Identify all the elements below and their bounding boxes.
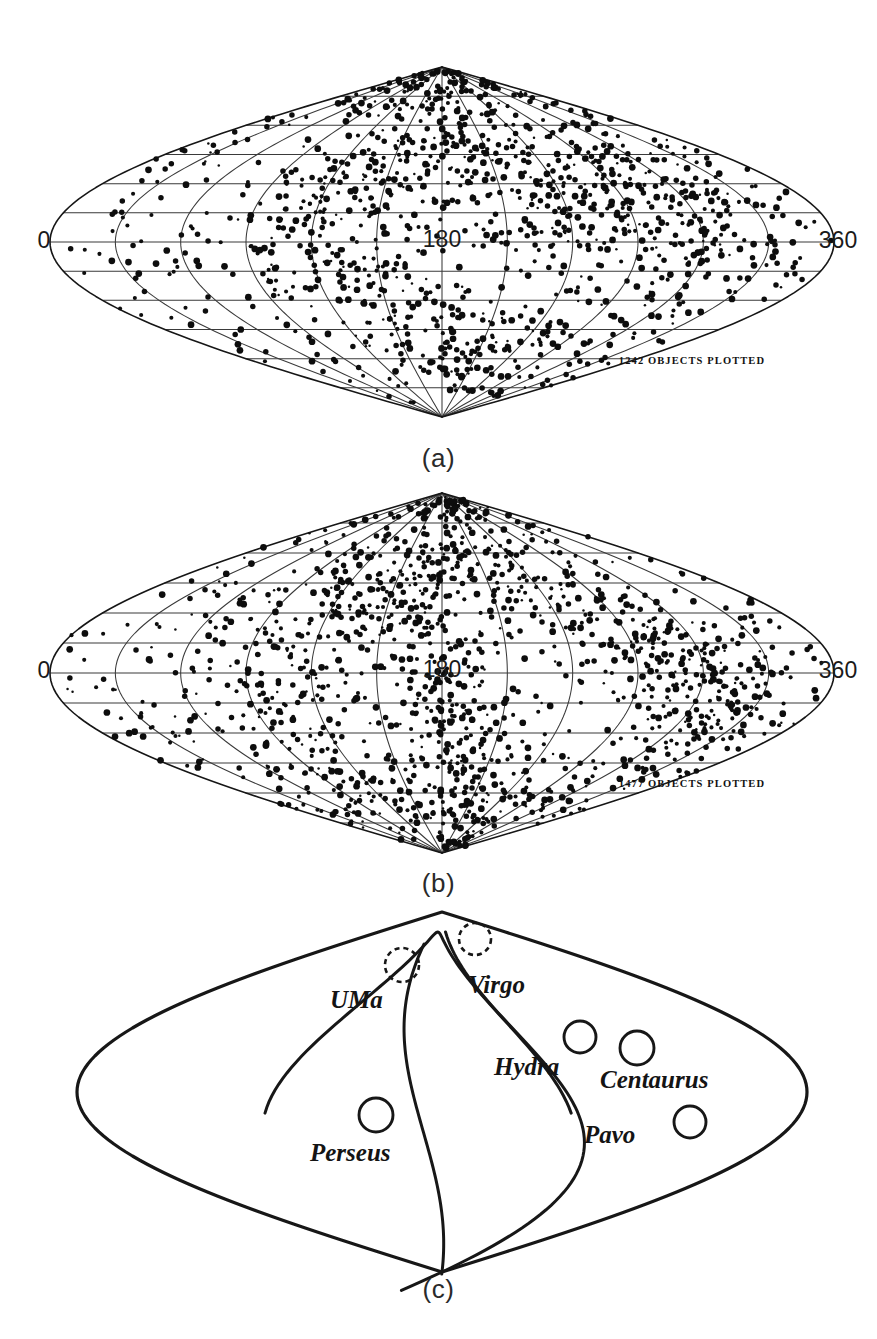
cluster-marker-hydra xyxy=(564,1021,596,1053)
panel-a-object-count: 1242 OBJECTS PLOTTED xyxy=(619,355,765,366)
panel-b-axis-label-right: 360 xyxy=(819,657,857,683)
cluster-label-pavo: Pavo xyxy=(583,1121,635,1148)
cluster-label-virgo: Virgo xyxy=(468,971,525,998)
panel-c-cluster-labels: UMaVirgoHydraCentaurusPerseusPavo xyxy=(309,971,708,1166)
cluster-marker-perseus xyxy=(359,1098,393,1132)
panel-b-sky-map: 0 180 360 1477 OBJECTS PLOTTED xyxy=(0,470,877,925)
cluster-label-uma: UMa xyxy=(330,986,383,1013)
cluster-marker-centaurus xyxy=(620,1031,654,1065)
sky-distribution-figure: 0 180 360 1242 OBJECTS PLOTTED (a) 0 180… xyxy=(0,0,877,1339)
panel-c-caption: (c) xyxy=(0,1274,877,1305)
cluster-marker-virgo xyxy=(459,923,491,955)
panel-b-axis-label-center: 180 xyxy=(423,656,461,682)
panel-c-cluster-markers xyxy=(359,923,706,1138)
cluster-label-perseus: Perseus xyxy=(309,1139,391,1166)
cluster-label-centaurus: Centaurus xyxy=(600,1066,708,1093)
panel-b-svg: 0 180 360 1477 OBJECTS PLOTTED xyxy=(0,470,877,925)
panel-c-cluster-schematic: UMaVirgoHydraCentaurusPerseusPavo xyxy=(0,895,877,1315)
panel-a-sky-map: 0 180 360 1242 OBJECTS PLOTTED xyxy=(0,30,877,485)
panel-a-axis-label-left: 0 xyxy=(38,227,51,253)
panel-a-axis-label-right: 360 xyxy=(819,227,857,253)
panel-a-axis-label-center: 180 xyxy=(423,226,461,252)
panel-c-outline-and-curves xyxy=(77,912,807,1290)
panel-a-svg: 0 180 360 1242 OBJECTS PLOTTED xyxy=(0,30,877,485)
cluster-label-hydra: Hydra xyxy=(493,1053,559,1080)
panel-b-object-count: 1477 OBJECTS PLOTTED xyxy=(619,778,765,789)
cluster-marker-pavo xyxy=(674,1106,706,1138)
panel-c-svg: UMaVirgoHydraCentaurusPerseusPavo xyxy=(0,895,877,1315)
panel-b-axis-label-left: 0 xyxy=(38,657,51,683)
